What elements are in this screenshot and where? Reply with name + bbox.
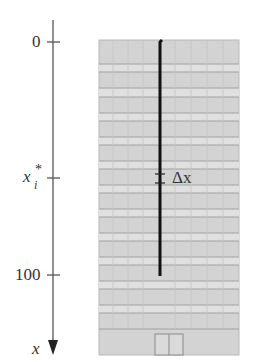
tick-label-xi: x: [23, 168, 31, 185]
tick-label-0: 0: [32, 33, 41, 50]
tick-label-xi-sup: *: [35, 163, 42, 177]
slice-label: Δx: [172, 169, 191, 186]
axis-variable-label: x: [32, 340, 40, 357]
diagram-canvas: [0, 0, 253, 362]
tick-label-xi-sub: i: [34, 179, 37, 191]
door: [155, 334, 183, 355]
depth-axis: [47, 20, 60, 345]
tick-label-xi-base: x: [23, 167, 31, 186]
tick-label-100: 100: [15, 266, 41, 283]
delta-symbol: Δx: [172, 168, 191, 187]
building: [99, 40, 239, 355]
axis-arrow-down-icon: [48, 340, 58, 355]
